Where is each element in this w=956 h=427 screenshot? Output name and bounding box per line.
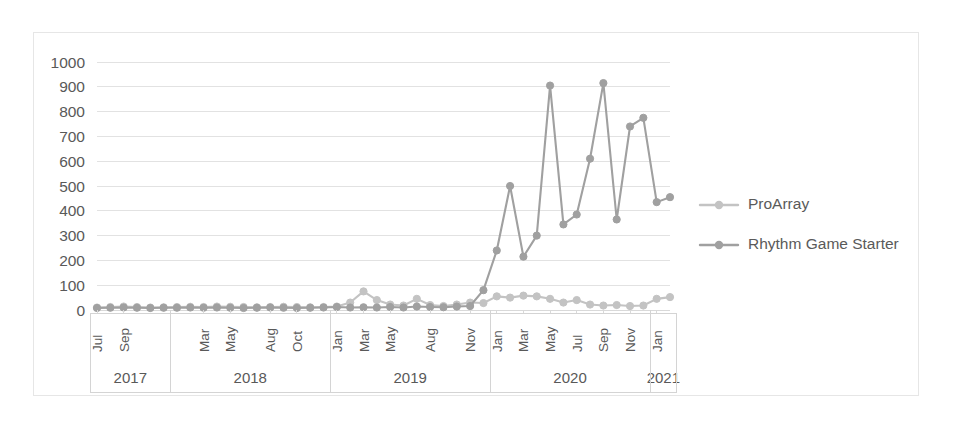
- data-point: [467, 302, 474, 309]
- series-layer: [93, 79, 673, 311]
- data-point: [640, 302, 647, 309]
- x-axis-tick-label: Mar: [197, 328, 212, 352]
- data-point: [413, 303, 420, 310]
- x-axis-tick-label: Nov: [623, 328, 638, 352]
- x-axis-tick-label: Nov: [463, 328, 478, 352]
- data-point: [520, 253, 527, 260]
- x-axis-year-label: 2020: [553, 369, 586, 386]
- data-point: [666, 194, 673, 201]
- x-axis-year-label: 2019: [393, 369, 426, 386]
- legend-item-2[interactable]: Rhythm Game Starter: [700, 235, 899, 252]
- x-axis-tick-label: Mar: [357, 328, 372, 352]
- y-axis-tick-label: 800: [59, 103, 85, 120]
- data-point: [653, 199, 660, 206]
- data-point: [360, 304, 367, 311]
- data-point: [173, 304, 180, 311]
- data-point: [560, 221, 567, 228]
- data-point: [600, 79, 607, 86]
- data-point: [373, 304, 380, 311]
- data-point: [400, 304, 407, 311]
- data-point: [347, 304, 354, 311]
- data-point: [360, 288, 367, 295]
- data-point: [613, 301, 620, 308]
- y-axis-tick-label: 600: [59, 153, 85, 170]
- data-point: [413, 295, 420, 302]
- legend-item-1[interactable]: ProArray: [700, 195, 809, 212]
- x-axis-tick-label: Aug: [263, 328, 278, 352]
- y-axis-tick-label: 500: [59, 178, 85, 195]
- data-point: [533, 293, 540, 300]
- y-axis-tick-label: 0: [76, 302, 85, 319]
- x-axis-tick-label: Aug: [423, 328, 438, 352]
- y-axis-tick-label: 900: [59, 78, 85, 95]
- y-axis-tick-label: 1000: [51, 54, 86, 71]
- data-point: [480, 299, 487, 306]
- series-2: [93, 79, 673, 311]
- data-point: [506, 294, 513, 301]
- data-point: [107, 304, 114, 311]
- x-axis-tick-label: Mar: [516, 328, 531, 352]
- data-point: [626, 123, 633, 130]
- x-axis-year-label: 2018: [234, 369, 267, 386]
- x-axis-tick-label: Sep: [596, 328, 611, 352]
- x-axis-tick-label: May: [223, 326, 238, 352]
- data-point: [160, 304, 167, 311]
- data-point: [666, 294, 673, 301]
- x-axis-tick-label: Jul: [90, 335, 105, 352]
- data-point: [147, 304, 154, 311]
- data-point: [640, 114, 647, 121]
- data-point: [493, 293, 500, 300]
- series-line: [97, 291, 670, 307]
- y-axis-tick-label: 200: [59, 252, 85, 269]
- data-point: [240, 304, 247, 311]
- data-point: [333, 303, 340, 310]
- x-axis-tick-label: Jan: [490, 330, 505, 352]
- data-point: [280, 304, 287, 311]
- data-point: [533, 232, 540, 239]
- x-axis-year-label: 2017: [114, 369, 147, 386]
- data-point: [626, 302, 633, 309]
- y-axis-tick-label: 400: [59, 202, 85, 219]
- data-point: [613, 216, 620, 223]
- data-point: [493, 247, 500, 254]
- y-axis-tick-label: 100: [59, 277, 85, 294]
- data-point: [573, 211, 580, 218]
- data-point: [320, 304, 327, 311]
- data-point: [546, 295, 553, 302]
- x-axis-tick-label: May: [543, 326, 558, 352]
- y-axis-tick-label: 300: [59, 227, 85, 244]
- y-axis-tick-labels: 10009008007006005004003002001000: [51, 54, 86, 319]
- data-point: [600, 302, 607, 309]
- data-point: [560, 299, 567, 306]
- data-point: [653, 295, 660, 302]
- legend-label: Rhythm Game Starter: [748, 235, 899, 252]
- data-point: [187, 304, 194, 311]
- legend-marker-icon: [715, 201, 723, 209]
- x-axis-tick-label: Sep: [117, 328, 132, 352]
- x-axis-tick-labels: JulSepMarMayAugOctJanMarMayAugNovJanMarM…: [90, 310, 665, 352]
- data-point: [373, 296, 380, 303]
- data-point: [520, 292, 527, 299]
- line-chart: 10009008007006005004003002001000 JulSepM…: [0, 0, 956, 427]
- x-axis-tick-label: Oct: [290, 331, 305, 352]
- data-point: [586, 155, 593, 162]
- chart-legend: ProArrayRhythm Game Starter: [700, 195, 899, 252]
- data-point: [440, 304, 447, 311]
- x-axis-tick-label: Jan: [650, 330, 665, 352]
- data-point: [480, 287, 487, 294]
- data-point: [586, 301, 593, 308]
- data-point: [573, 296, 580, 303]
- y-axis-tick-label: 700: [59, 128, 85, 145]
- data-point: [213, 304, 220, 311]
- x-axis-tick-label: Jan: [330, 330, 345, 352]
- series-line: [97, 83, 670, 308]
- x-axis-year-label: 2021: [647, 369, 680, 386]
- legend-label: ProArray: [748, 195, 809, 212]
- data-point: [133, 304, 140, 311]
- legend-marker-icon: [715, 241, 723, 249]
- data-point: [307, 304, 314, 311]
- data-point: [546, 82, 553, 89]
- x-axis-tick-label: Jul: [570, 335, 585, 352]
- data-point: [427, 303, 434, 310]
- data-point: [506, 182, 513, 189]
